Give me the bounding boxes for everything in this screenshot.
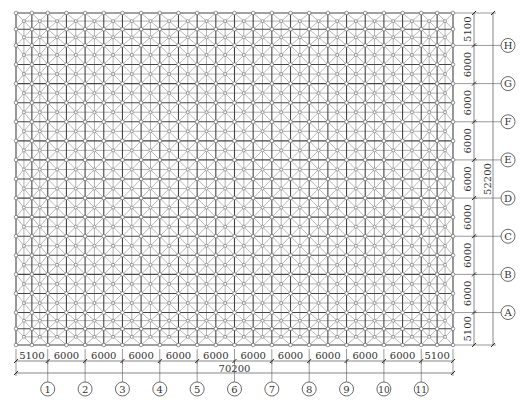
upper-node (121, 101, 125, 105)
lower-node (280, 225, 283, 228)
upper-node (46, 158, 50, 162)
upper-node (195, 254, 199, 258)
lower-node (74, 206, 77, 209)
upper-node (83, 82, 87, 86)
upper-node (451, 11, 455, 15)
upper-node (30, 11, 34, 15)
upper-node (363, 234, 367, 238)
dimension-label: 5100 (462, 16, 473, 41)
lower-node (242, 282, 245, 285)
lower-node (261, 73, 264, 76)
upper-node (14, 343, 18, 347)
upper-node (65, 101, 69, 105)
lower-node (428, 263, 431, 266)
upper-node (177, 44, 181, 48)
dimension-label: 6000 (462, 52, 473, 77)
lower-node (428, 168, 431, 171)
dimension-label: 6000 (91, 350, 116, 361)
upper-node (419, 44, 423, 48)
lower-node (261, 302, 264, 305)
upper-node (419, 158, 423, 162)
lower-node (130, 187, 133, 190)
lower-node (336, 149, 339, 152)
lower-node (444, 73, 447, 76)
upper-node (363, 44, 367, 48)
axis-label: B (504, 269, 511, 280)
lower-node (22, 111, 25, 114)
upper-node (121, 273, 125, 277)
upper-node (46, 11, 50, 15)
upper-node (451, 215, 455, 219)
lower-node (261, 130, 264, 133)
upper-node (251, 327, 255, 331)
upper-node (289, 343, 293, 347)
upper-node (14, 27, 18, 31)
upper-node (345, 234, 349, 238)
lower-node (112, 319, 115, 322)
lower-node (149, 302, 152, 305)
upper-node (158, 254, 162, 258)
upper-node (401, 101, 405, 105)
lower-node (373, 53, 376, 56)
axis-label: 10 (378, 385, 390, 395)
lower-node (149, 73, 152, 76)
lower-node (205, 263, 208, 266)
upper-node (177, 11, 181, 15)
upper-node (14, 139, 18, 143)
lower-node (224, 282, 227, 285)
lower-node (112, 73, 115, 76)
upper-node (65, 177, 69, 181)
lower-node (261, 111, 264, 114)
lower-node (336, 73, 339, 76)
lower-node (317, 149, 320, 152)
upper-node (102, 101, 106, 105)
lower-node (428, 187, 431, 190)
lower-node (373, 149, 376, 152)
lower-node (242, 302, 245, 305)
upper-node (401, 158, 405, 162)
upper-node (195, 311, 199, 315)
upper-node (83, 196, 87, 200)
lower-node (74, 263, 77, 266)
upper-node (307, 311, 311, 315)
upper-node (270, 292, 274, 296)
upper-node (451, 44, 455, 48)
lower-node (22, 302, 25, 305)
dimension-label: 6000 (203, 350, 228, 361)
upper-node (158, 82, 162, 86)
lower-node (56, 53, 59, 56)
upper-node (326, 120, 330, 124)
upper-node (102, 196, 106, 200)
upper-node (233, 158, 237, 162)
upper-node (65, 343, 69, 347)
lower-node (186, 206, 189, 209)
lower-node (93, 111, 96, 114)
upper-node (307, 254, 311, 258)
upper-node (270, 215, 274, 219)
dimension-label: 6000 (278, 350, 303, 361)
upper-node (382, 177, 386, 181)
lower-node (224, 335, 227, 338)
upper-node (289, 44, 293, 48)
lower-node (261, 20, 264, 23)
lower-node (205, 53, 208, 56)
lower-node (354, 319, 357, 322)
lower-node (224, 73, 227, 76)
upper-node (30, 120, 34, 124)
upper-node (451, 27, 455, 31)
dimension-label: 5100 (462, 316, 473, 341)
lower-node (410, 225, 413, 228)
lower-node (93, 149, 96, 152)
upper-node (14, 196, 18, 200)
lower-node (22, 206, 25, 209)
lower-node (130, 225, 133, 228)
lower-node (22, 225, 25, 228)
upper-node (345, 82, 349, 86)
lower-node (392, 73, 395, 76)
upper-node (451, 196, 455, 200)
upper-node (46, 311, 50, 315)
lower-node (242, 36, 245, 39)
upper-node (289, 82, 293, 86)
upper-node (102, 311, 106, 315)
upper-node (121, 44, 125, 48)
